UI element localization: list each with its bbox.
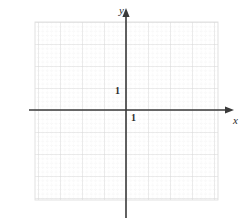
x-axis-unit-tick-label: 1 xyxy=(131,113,136,123)
x-axis-arrowhead xyxy=(225,106,234,113)
x-axis-label: x xyxy=(233,115,238,126)
coordinate-plane-svg xyxy=(0,0,246,224)
y-axis-label: y xyxy=(119,5,124,16)
y-axis-unit-tick-label: 1 xyxy=(115,86,120,96)
coordinate-grid-figure: y x 1 1 xyxy=(0,0,246,224)
